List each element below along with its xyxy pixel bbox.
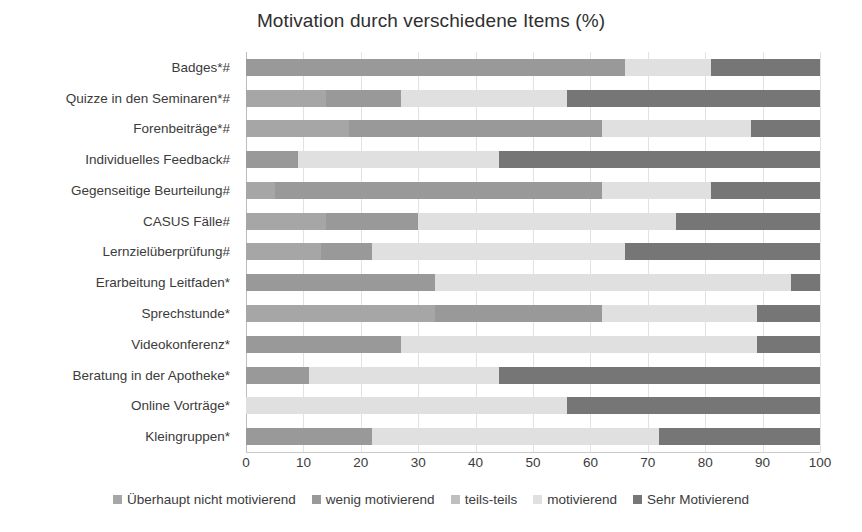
bar-segment[interactable]	[602, 182, 711, 199]
stacked-bar[interactable]	[246, 274, 820, 291]
bar-segment[interactable]	[372, 428, 659, 445]
bar-segment[interactable]	[499, 367, 820, 384]
x-axis-tick: 60	[583, 455, 598, 470]
bar-segment[interactable]	[321, 243, 373, 260]
bar-segment[interactable]	[791, 274, 820, 291]
bar-segment[interactable]	[625, 59, 711, 76]
bar-segment[interactable]	[659, 428, 820, 445]
bar-segment[interactable]	[326, 213, 418, 230]
bar-segment[interactable]	[711, 182, 820, 199]
stacked-bar[interactable]	[246, 367, 820, 384]
bar-segment[interactable]	[246, 120, 349, 137]
bar-segment[interactable]	[246, 59, 625, 76]
plot-area	[246, 52, 820, 452]
bar-segment[interactable]	[751, 120, 820, 137]
stacked-bar[interactable]	[246, 243, 820, 260]
x-axis-tick: 90	[755, 455, 770, 470]
legend-swatch-icon	[633, 495, 642, 504]
legend-swatch-icon	[451, 495, 460, 504]
bar-segment[interactable]	[246, 213, 326, 230]
bar-row	[246, 360, 820, 391]
bar-segment[interactable]	[676, 213, 820, 230]
x-axis-line	[246, 452, 820, 453]
bar-segment[interactable]	[435, 274, 791, 291]
bar-segment[interactable]	[625, 243, 820, 260]
bar-segment[interactable]	[602, 120, 751, 137]
bar-segment[interactable]	[401, 336, 757, 353]
y-axis-label: Quizze in den Seminaren*#	[0, 83, 238, 114]
stacked-bar[interactable]	[246, 213, 820, 230]
bar-segment[interactable]	[246, 428, 372, 445]
bar-segment[interactable]	[757, 336, 820, 353]
bar-row	[246, 329, 820, 360]
y-axis-label: Individuelles Feedback#	[0, 144, 238, 175]
x-axis-tick: 50	[525, 455, 540, 470]
stacked-bar[interactable]	[246, 336, 820, 353]
x-axis-tick-labels: 0102030405060708090100	[246, 455, 820, 475]
legend-swatch-icon	[312, 495, 321, 504]
stacked-bar[interactable]	[246, 151, 820, 168]
stacked-bar[interactable]	[246, 120, 820, 137]
chart-legend: Überhaupt nicht motivierendwenig motivie…	[0, 492, 862, 507]
bar-segment[interactable]	[372, 243, 625, 260]
bar-segment[interactable]	[435, 305, 601, 322]
bar-segment[interactable]	[499, 151, 820, 168]
x-axis-tick: 70	[640, 455, 655, 470]
bar-segment[interactable]	[349, 120, 602, 137]
legend-item[interactable]: teils-teils	[451, 492, 518, 507]
bar-segment[interactable]	[246, 336, 401, 353]
bar-row	[246, 83, 820, 114]
bar-row	[246, 390, 820, 421]
bar-segment[interactable]	[246, 274, 435, 291]
x-axis-tick: 40	[468, 455, 483, 470]
bar-segment[interactable]	[246, 397, 567, 414]
bar-segment[interactable]	[757, 305, 820, 322]
bar-segment[interactable]	[567, 397, 820, 414]
legend-label: Überhaupt nicht motivierend	[127, 492, 296, 507]
bar-row	[246, 144, 820, 175]
stacked-bar[interactable]	[246, 90, 820, 107]
legend-item[interactable]: wenig motivierend	[312, 492, 435, 507]
y-axis-label: Lernzielüberprüfung#	[0, 237, 238, 268]
stacked-bar[interactable]	[246, 428, 820, 445]
bar-segment[interactable]	[309, 367, 498, 384]
chart-container: Motivation durch verschiedene Items (%) …	[0, 0, 862, 532]
legend-label: motivierend	[547, 492, 617, 507]
bar-segment[interactable]	[246, 305, 435, 322]
x-axis-tick: 80	[698, 455, 713, 470]
bar-segment[interactable]	[246, 90, 326, 107]
bar-row	[246, 298, 820, 329]
legend-item[interactable]: Überhaupt nicht motivierend	[113, 492, 296, 507]
x-axis-tick: 10	[296, 455, 311, 470]
bar-row	[246, 114, 820, 145]
x-axis-tick: 20	[353, 455, 368, 470]
bar-segment[interactable]	[275, 182, 602, 199]
bar-series-group	[246, 52, 820, 452]
legend-item[interactable]: motivierend	[533, 492, 617, 507]
bar-row	[246, 52, 820, 83]
legend-label: wenig motivierend	[326, 492, 435, 507]
bar-segment[interactable]	[401, 90, 567, 107]
bar-segment[interactable]	[326, 90, 401, 107]
y-axis-label: Erarbeitung Leitfaden*	[0, 267, 238, 298]
x-axis-tick: 0	[242, 455, 250, 470]
bar-segment[interactable]	[711, 59, 820, 76]
stacked-bar[interactable]	[246, 305, 820, 322]
bar-segment[interactable]	[602, 305, 757, 322]
bar-segment[interactable]	[246, 243, 321, 260]
legend-swatch-icon	[533, 495, 542, 504]
bar-segment[interactable]	[418, 213, 676, 230]
stacked-bar[interactable]	[246, 59, 820, 76]
stacked-bar[interactable]	[246, 182, 820, 199]
bar-row	[246, 267, 820, 298]
bar-segment[interactable]	[246, 182, 275, 199]
bar-segment[interactable]	[246, 151, 298, 168]
y-axis-label: Online Vorträge*	[0, 390, 238, 421]
bar-segment[interactable]	[298, 151, 499, 168]
y-axis-label: Forenbeiträge*#	[0, 114, 238, 145]
bar-segment[interactable]	[567, 90, 820, 107]
gridline	[820, 52, 821, 452]
bar-segment[interactable]	[246, 367, 309, 384]
stacked-bar[interactable]	[246, 397, 820, 414]
legend-item[interactable]: Sehr Motivierend	[633, 492, 749, 507]
